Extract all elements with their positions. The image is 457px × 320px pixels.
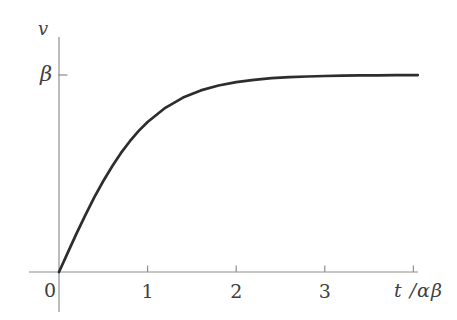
x-tick-label: 2 bbox=[230, 282, 242, 301]
x-ticks bbox=[148, 266, 414, 273]
x-tick-label: 1 bbox=[142, 282, 154, 301]
plot-svg bbox=[0, 0, 457, 320]
y-axis-label: v bbox=[38, 20, 48, 38]
x-tick-label: 3 bbox=[319, 282, 331, 301]
velocity-vs-time-figure: v β 0 t /αβ 123 bbox=[0, 0, 457, 320]
y-tick-label-beta: β bbox=[40, 64, 52, 85]
origin-label: 0 bbox=[44, 281, 56, 300]
velocity-curve bbox=[59, 75, 418, 272]
x-axis-label: t /αβ bbox=[394, 281, 443, 300]
